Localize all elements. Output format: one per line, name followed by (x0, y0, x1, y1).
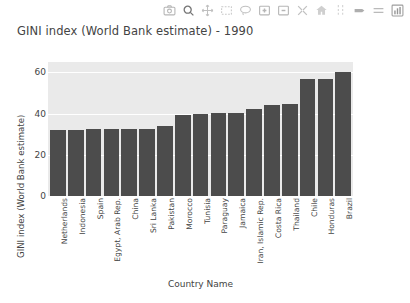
box-select-icon[interactable] (220, 4, 233, 17)
x-axis-tick-label: Brazil (346, 198, 354, 219)
bar[interactable] (175, 115, 191, 196)
x-axis-tick: Iran, Islamic Rep. (246, 198, 262, 270)
hover-compare-icon[interactable] (353, 4, 366, 17)
bar[interactable] (228, 113, 244, 196)
x-axis-tick: Indonesia (68, 198, 84, 270)
y-axis-tick: 60 (35, 67, 46, 77)
y-axis-tick-labels: 0204060 (26, 62, 46, 196)
chart-title: GINI index (World Bank estimate) - 1990 (17, 24, 253, 38)
bar-series[interactable] (48, 62, 353, 196)
x-axis-tick: China (121, 198, 137, 270)
y-axis-title-wrapper: GINI index (World Bank estimate) (4, 62, 18, 196)
x-axis-tick: Netherlands (50, 198, 66, 270)
x-axis-tick-labels: NetherlandsIndonesiaSpainEgypt, Arab Rep… (48, 198, 353, 270)
y-axis-tick: 40 (35, 109, 46, 119)
bar[interactable] (300, 79, 316, 196)
x-axis-tick: Paraguay (211, 198, 227, 270)
bar[interactable] (139, 129, 155, 196)
bar[interactable] (264, 105, 280, 196)
lasso-select-icon[interactable] (239, 4, 252, 17)
x-axis-tick: Spain (86, 198, 102, 270)
x-axis-tick: Thailand (282, 198, 298, 270)
reset-axes-icon[interactable] (315, 4, 328, 17)
bar[interactable] (318, 79, 334, 197)
download-plot-icon[interactable] (163, 4, 176, 17)
gridline (48, 196, 353, 197)
plotly-logo-icon[interactable] (391, 4, 404, 17)
x-axis-tick: Brazil (335, 198, 351, 270)
pan-icon[interactable] (201, 4, 214, 17)
x-axis-tick: Egypt, Arab Rep. (104, 198, 120, 270)
bar[interactable] (246, 109, 262, 196)
bar[interactable] (86, 129, 102, 196)
bar[interactable] (335, 72, 351, 196)
x-axis-tick: Costa Rica (264, 198, 280, 270)
bar[interactable] (68, 130, 84, 196)
x-axis-tick: Chile (300, 198, 316, 270)
bar[interactable] (193, 114, 209, 196)
x-axis-tick: Tunisia (193, 198, 209, 270)
x-axis-tick: Morocco (175, 198, 191, 270)
bar[interactable] (104, 129, 120, 196)
spike-lines-icon[interactable] (334, 4, 347, 17)
zoom-out-icon[interactable] (277, 4, 290, 17)
bar[interactable] (157, 126, 173, 196)
plotly-chart-figure: GINI index (World Bank estimate) - 1990 … (0, 0, 410, 303)
x-axis-title: Country Name (48, 279, 353, 289)
zoom-in-icon[interactable] (258, 4, 271, 17)
plot-area[interactable] (48, 62, 353, 196)
zoom-icon[interactable] (182, 4, 195, 17)
x-axis-tick: Sri Lanka (139, 198, 155, 270)
x-axis-tick: Pakistan (157, 198, 173, 270)
y-axis-tick: 0 (40, 191, 46, 201)
bar[interactable] (50, 130, 66, 196)
hover-closest-icon[interactable] (372, 4, 385, 17)
autoscale-icon[interactable] (296, 4, 309, 17)
bar[interactable] (121, 129, 137, 196)
x-axis-tick: Honduras (318, 198, 334, 270)
plotly-modebar[interactable] (163, 2, 404, 18)
x-axis-tick: Jamaica (228, 198, 244, 270)
bar[interactable] (211, 113, 227, 196)
y-axis-tick: 20 (35, 150, 46, 160)
bar[interactable] (282, 104, 298, 196)
